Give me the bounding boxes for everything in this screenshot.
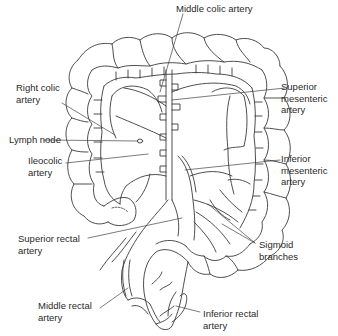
label-middle-rectal-artery: Middle rectal artery <box>38 300 92 323</box>
transverse-colon <box>78 33 280 70</box>
label-sigmoid-branches: Sigmoid branches <box>259 239 298 262</box>
colon-artery-diagram: Middle colic artery Right colic artery S… <box>0 0 338 336</box>
label-right-colic-artery: Right colic artery <box>16 82 60 105</box>
label-inferior-rectal-artery: Inferior rectal artery <box>203 308 258 331</box>
superior-mesenteric-artery <box>116 70 250 204</box>
label-ileocolic-artery: Ileocolic artery <box>28 155 62 178</box>
label-middle-colic-artery: Middle colic artery <box>176 3 253 15</box>
sigmoid-colon <box>186 244 270 277</box>
rectal-vessels <box>128 272 187 322</box>
label-lymph-node: Lymph node <box>9 134 61 146</box>
label-superior-mesenteric-artery: Superior mesenteric artery <box>281 81 327 116</box>
label-superior-rectal-artery: Superior rectal artery <box>18 233 80 256</box>
leader-lines <box>44 14 285 312</box>
label-inferior-mesenteric-artery: Inferior mesenteric artery <box>281 153 327 188</box>
rectum <box>144 240 189 329</box>
inferior-mesenteric-artery <box>178 156 242 252</box>
